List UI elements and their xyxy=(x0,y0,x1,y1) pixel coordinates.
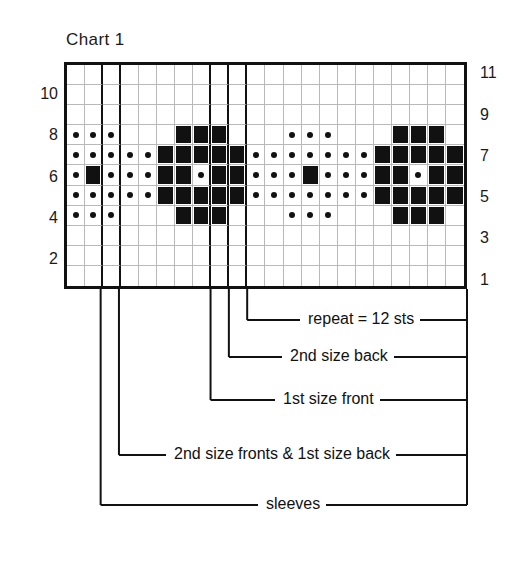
stitch-cell xyxy=(320,105,338,125)
annotation-label-repeat: repeat = 12 sts xyxy=(308,311,414,327)
stitch-cell xyxy=(193,266,211,286)
stitch-cell xyxy=(121,266,139,286)
stitch-cell xyxy=(229,186,247,206)
row-number-right: 3 xyxy=(480,229,514,247)
stitch-cell xyxy=(139,145,157,165)
stitch-chart-grid xyxy=(64,62,467,289)
stitch-cell xyxy=(410,186,428,206)
stitch-cell xyxy=(320,125,338,145)
stitch-cell xyxy=(338,125,356,145)
stitch-cell xyxy=(175,266,193,286)
stitch-cell xyxy=(103,246,121,266)
stitch-cell xyxy=(157,105,175,125)
stitch-cell xyxy=(392,206,410,226)
stitch-cell xyxy=(175,145,193,165)
stitch-cell xyxy=(67,266,85,286)
stitch-cell xyxy=(320,165,338,185)
stitch-cell xyxy=(229,165,247,185)
stitch-cell xyxy=(211,226,229,246)
stitch-cell xyxy=(356,246,374,266)
stitch-cell xyxy=(356,186,374,206)
stitch-cell xyxy=(229,226,247,246)
stitch-cell xyxy=(121,65,139,85)
stitch-cell xyxy=(428,226,446,246)
stitch-cell xyxy=(320,186,338,206)
stitch-cell xyxy=(374,186,392,206)
stitch-cell xyxy=(121,125,139,145)
stitch-cell xyxy=(356,266,374,286)
stitch-cell xyxy=(229,105,247,125)
stitch-cell xyxy=(157,226,175,246)
stitch-cell xyxy=(428,105,446,125)
stitch-cell xyxy=(446,226,464,246)
stitch-cell xyxy=(392,105,410,125)
stitch-cell xyxy=(211,186,229,206)
stitch-cell xyxy=(265,266,283,286)
stitch-cell xyxy=(139,65,157,85)
stitch-cell xyxy=(284,226,302,246)
annotation-label-second-fronts: 2nd size fronts & 1st size back xyxy=(174,446,390,462)
stitch-cell xyxy=(103,65,121,85)
stitch-cell xyxy=(320,226,338,246)
stitch-cell xyxy=(302,206,320,226)
stitch-cell xyxy=(193,105,211,125)
stitch-cell xyxy=(103,206,121,226)
stitch-cell xyxy=(67,226,85,246)
stitch-cell xyxy=(229,125,247,145)
stitch-cell xyxy=(410,165,428,185)
stitch-cell xyxy=(103,165,121,185)
stitch-cell xyxy=(338,226,356,246)
stitch-cell xyxy=(175,186,193,206)
stitch-cell xyxy=(302,266,320,286)
stitch-cell xyxy=(320,145,338,165)
stitch-cell xyxy=(284,165,302,185)
row-number-left: 2 xyxy=(24,250,58,268)
stitch-cell xyxy=(284,105,302,125)
stitch-cell xyxy=(211,246,229,266)
stitch-cell xyxy=(374,266,392,286)
stitch-cell xyxy=(428,266,446,286)
stitch-cell xyxy=(338,145,356,165)
stitch-cell xyxy=(103,125,121,145)
stitch-cell xyxy=(193,145,211,165)
annotation-label-first-front: 1st size front xyxy=(283,391,374,407)
stitch-cell xyxy=(392,145,410,165)
stitch-cell xyxy=(247,105,265,125)
stitch-cell xyxy=(392,125,410,145)
stitch-cell xyxy=(392,85,410,105)
stitch-cell xyxy=(410,85,428,105)
stitch-cell xyxy=(428,145,446,165)
stitch-cell xyxy=(85,145,103,165)
stitch-cell xyxy=(193,165,211,185)
stitch-cell xyxy=(446,186,464,206)
stitch-cell xyxy=(374,226,392,246)
stitch-cell xyxy=(121,246,139,266)
stitch-cell xyxy=(247,246,265,266)
stitch-cell xyxy=(446,246,464,266)
row-number-left: 4 xyxy=(24,209,58,227)
stitch-cell xyxy=(157,266,175,286)
stitch-cell xyxy=(211,266,229,286)
stitch-cell xyxy=(356,65,374,85)
stitch-cell xyxy=(139,186,157,206)
stitch-cell xyxy=(446,206,464,226)
stitch-cell xyxy=(374,145,392,165)
stitch-cell xyxy=(247,85,265,105)
stitch-cell xyxy=(85,85,103,105)
stitch-cell xyxy=(320,246,338,266)
stitch-cell xyxy=(85,226,103,246)
stitch-cell xyxy=(157,186,175,206)
stitch-cell xyxy=(265,85,283,105)
stitch-cell xyxy=(284,65,302,85)
stitch-cell xyxy=(302,125,320,145)
stitch-cell xyxy=(410,65,428,85)
stitch-cell xyxy=(229,246,247,266)
stitch-cell xyxy=(85,165,103,185)
page-title: Chart 1 xyxy=(66,30,125,50)
stitch-cell xyxy=(428,186,446,206)
stitch-cell xyxy=(302,105,320,125)
stitch-cell xyxy=(265,246,283,266)
stitch-cell xyxy=(356,145,374,165)
stitch-cell xyxy=(67,65,85,85)
stitch-cell xyxy=(139,266,157,286)
